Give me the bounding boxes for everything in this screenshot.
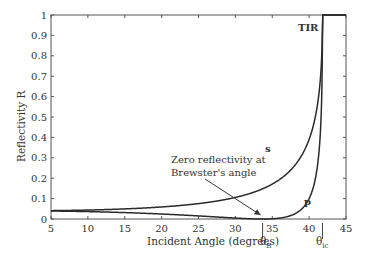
x-tick-label: 30 xyxy=(229,223,242,234)
y-tick-label: 0.8 xyxy=(31,50,47,61)
brewster-arrow xyxy=(205,179,261,215)
y-tick-label: 0.3 xyxy=(31,152,47,163)
y-tick-label: 0.6 xyxy=(31,91,47,102)
tir-label: TIR xyxy=(298,22,319,33)
y-tick-label: 0.9 xyxy=(31,30,47,41)
brewster-annotation-line2: Brewster's angle xyxy=(171,167,257,178)
annotations: TIR s p Zero reflectivity at Brewster's … xyxy=(15,22,329,250)
arrowhead-icon xyxy=(254,209,261,215)
y-tick-label: 0.1 xyxy=(31,193,47,204)
x-tick-label: 10 xyxy=(82,223,95,234)
x-tick-label: 35 xyxy=(266,223,279,234)
s-curve-label: s xyxy=(265,143,271,154)
x-tick-label: 45 xyxy=(340,223,353,234)
p-curve-label: p xyxy=(304,196,311,207)
y-tick-label: 1 xyxy=(41,10,47,21)
x-tick-label: 25 xyxy=(192,223,205,234)
y-tick-label: 0.4 xyxy=(31,132,47,143)
theta-ic-label: θic xyxy=(316,235,329,250)
x-tick-label: 5 xyxy=(48,223,54,234)
plot-frame xyxy=(51,15,346,219)
y-tick-label: 0.5 xyxy=(31,112,47,123)
y-axis-label: Reflectivity R xyxy=(15,89,27,162)
reflectivity-chart: 5101520253035404500.10.20.30.40.50.60.70… xyxy=(0,0,367,260)
x-tick-label: 15 xyxy=(118,223,131,234)
y-tick-label: 0.7 xyxy=(31,71,47,82)
p-curve xyxy=(51,15,346,219)
brewster-annotation-line1: Zero reflectivity at xyxy=(171,154,266,165)
y-tick-label: 0.2 xyxy=(31,173,47,184)
curves xyxy=(51,15,346,219)
x-tick-label: 20 xyxy=(155,223,168,234)
s-curve xyxy=(51,15,346,211)
y-tick-label: 0 xyxy=(41,214,47,225)
x-tick-label: 40 xyxy=(303,223,316,234)
